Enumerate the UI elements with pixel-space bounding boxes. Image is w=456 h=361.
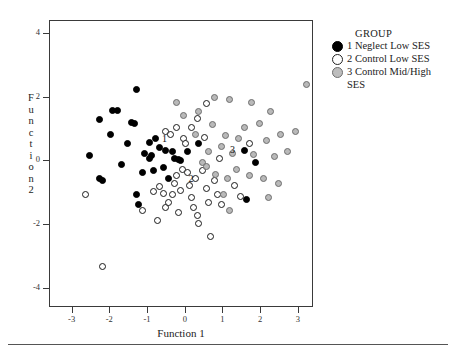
data-point-group3 bbox=[248, 99, 255, 106]
data-point-group2 bbox=[167, 131, 174, 138]
gray-filled-circle-icon bbox=[332, 67, 343, 78]
scatter-plot-figure: F u n c t i o n 2 123 420-2-4 -3-2-10123… bbox=[0, 0, 456, 361]
data-point-group1 bbox=[146, 155, 153, 162]
centroid-label-2: 2 bbox=[188, 174, 193, 184]
y-axis-title-letter: c bbox=[24, 127, 38, 139]
data-point-group1 bbox=[96, 116, 103, 123]
data-point-group3 bbox=[265, 194, 272, 201]
data-point-group2 bbox=[201, 134, 208, 141]
data-point-group2 bbox=[177, 187, 184, 194]
open-circle-icon bbox=[332, 54, 343, 65]
data-point-group3 bbox=[218, 143, 225, 150]
data-point-group3 bbox=[250, 151, 257, 158]
data-point-group2 bbox=[99, 263, 106, 270]
data-point-group2 bbox=[175, 209, 182, 216]
data-point-group2 bbox=[218, 201, 225, 208]
data-point-group3 bbox=[267, 108, 274, 115]
data-point-group1 bbox=[86, 152, 93, 159]
data-point-group2 bbox=[194, 115, 201, 122]
data-point-group3 bbox=[205, 148, 212, 155]
data-point-group1 bbox=[252, 159, 259, 166]
data-point-group1 bbox=[139, 169, 146, 176]
y-axis-tick-label: 2 bbox=[18, 92, 40, 101]
data-point-group2 bbox=[194, 212, 201, 219]
y-axis-tick-label: -2 bbox=[18, 219, 40, 228]
data-point-group2 bbox=[188, 194, 195, 201]
x-axis-tick bbox=[109, 307, 110, 313]
data-point-group2 bbox=[139, 207, 146, 214]
legend-title: GROUP bbox=[355, 28, 456, 39]
y-axis-title-letter: n bbox=[24, 115, 38, 127]
x-axis-ticks bbox=[49, 307, 313, 315]
data-point-group3 bbox=[275, 180, 282, 187]
data-point-group2 bbox=[216, 155, 223, 162]
data-point-group3 bbox=[263, 137, 270, 144]
data-point-group3 bbox=[241, 124, 248, 131]
data-point-group1 bbox=[150, 167, 157, 174]
data-point-group2 bbox=[207, 233, 214, 240]
legend: GROUP 1 Neglect Low SES 2 Control Low SE… bbox=[332, 28, 456, 91]
x-axis-tick-label: -2 bbox=[99, 315, 119, 324]
data-point-group2 bbox=[160, 190, 167, 197]
centroid-label-3: 3 bbox=[230, 145, 235, 155]
data-point-group3 bbox=[212, 171, 219, 178]
data-point-group2 bbox=[205, 199, 212, 206]
data-point-group3 bbox=[220, 191, 227, 198]
data-point-group3 bbox=[173, 99, 180, 106]
x-axis-tick bbox=[298, 307, 299, 313]
y-axis-tick bbox=[43, 97, 49, 98]
legend-item-group2[interactable]: 2 Control Low SES bbox=[332, 53, 456, 65]
data-point-group2 bbox=[171, 180, 178, 187]
data-point-group2 bbox=[169, 191, 176, 198]
y-axis-title-letter: 2 bbox=[24, 184, 38, 196]
x-axis-tick-label: 3 bbox=[288, 315, 308, 324]
data-point-group3 bbox=[195, 108, 202, 115]
data-point-group1 bbox=[184, 148, 191, 155]
y-axis-tick-label: 0 bbox=[18, 155, 40, 164]
x-axis-tick-label: 1 bbox=[212, 315, 232, 324]
data-point-group3 bbox=[277, 131, 284, 138]
data-point-group3 bbox=[233, 166, 240, 173]
data-point-group3 bbox=[303, 81, 310, 88]
y-axis-tick-label: -4 bbox=[18, 283, 40, 292]
data-point-group1 bbox=[152, 135, 159, 142]
data-point-group1 bbox=[99, 177, 106, 184]
data-point-group2 bbox=[154, 217, 161, 224]
data-point-group1 bbox=[160, 164, 167, 171]
data-point-group3 bbox=[180, 112, 187, 119]
data-point-group3 bbox=[226, 96, 233, 103]
data-point-group2 bbox=[182, 140, 189, 147]
data-point-group2 bbox=[82, 191, 89, 198]
x-axis-tick-label: -1 bbox=[137, 315, 157, 324]
data-point-group1 bbox=[133, 86, 140, 93]
data-point-group2 bbox=[190, 204, 197, 211]
y-axis-title-letter: t bbox=[24, 138, 38, 150]
data-point-group2 bbox=[231, 182, 238, 189]
x-axis-tick bbox=[147, 307, 148, 313]
spacer-icon bbox=[332, 80, 343, 91]
y-axis-title: F u n c t i o n 2 bbox=[24, 92, 38, 196]
y-axis-tick bbox=[43, 288, 49, 289]
filled-black-circle-icon bbox=[332, 41, 343, 52]
footer-divider bbox=[8, 344, 448, 345]
data-point-group2 bbox=[150, 188, 157, 195]
data-point-group3 bbox=[211, 94, 218, 101]
y-axis-tick bbox=[43, 224, 49, 225]
data-point-group1 bbox=[114, 107, 121, 114]
centroid-label-1: 1 bbox=[162, 134, 167, 144]
data-point-group1 bbox=[241, 147, 248, 154]
data-point-group3 bbox=[209, 121, 216, 128]
legend-item-group1[interactable]: 1 Neglect Low SES bbox=[332, 40, 456, 52]
data-point-group1 bbox=[177, 157, 184, 164]
legend-item-group3[interactable]: 3 Control Mid/High bbox=[332, 66, 456, 78]
x-axis-tick bbox=[260, 307, 261, 313]
plot-area: 123 bbox=[50, 21, 312, 306]
data-point-group3 bbox=[226, 207, 233, 214]
y-axis-tick-label: 4 bbox=[18, 28, 40, 37]
data-point-group3 bbox=[224, 175, 231, 182]
legend-item-label: 1 Neglect Low SES bbox=[347, 40, 430, 52]
data-point-group3 bbox=[203, 163, 210, 170]
data-point-group3 bbox=[271, 153, 278, 160]
x-axis-tick-label: -3 bbox=[62, 315, 82, 324]
data-point-group1 bbox=[124, 140, 131, 147]
